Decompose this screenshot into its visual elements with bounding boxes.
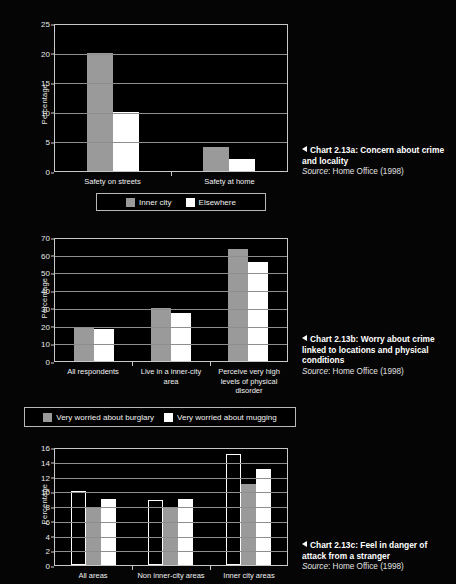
chart-b-y-tick: 50	[41, 269, 50, 278]
page-root: Percentage 0510152025 Safety on streetsS…	[0, 0, 456, 584]
chart-c-gridline	[55, 463, 287, 464]
chart-c-gridline	[55, 522, 287, 523]
chart-c-gridline	[55, 492, 287, 493]
chart-b-legend: Very worried about burglaryVery worried …	[24, 407, 296, 427]
chart-b-gridline	[55, 256, 287, 257]
chart-c-y-tick: 10	[41, 488, 50, 497]
chart-b-x-labels: All respondentsLive in a inner-city area…	[54, 367, 288, 396]
chart-c-bar	[178, 499, 193, 565]
chart-b-y-tick: 30	[41, 304, 50, 313]
chart-b-caption-source: Source: Home Office (1998)	[302, 367, 452, 378]
legend-item: Inner city	[126, 198, 171, 207]
chart-c-y-tick: 12	[41, 473, 50, 482]
chart-b-bar	[248, 262, 268, 361]
chart-b-y-tick: 40	[41, 287, 50, 296]
chart-c-gridline	[55, 507, 287, 508]
chart-a-x-tickmark	[171, 172, 172, 176]
chart-b-gridline	[55, 344, 287, 345]
chart-b-y-tick: 20	[41, 322, 50, 331]
chart-a-x-tickmarks	[54, 172, 288, 176]
chart-a-caption: Chart 2.13a: Concern about crime and loc…	[302, 145, 452, 178]
chart-b-x-tickmark	[210, 362, 211, 366]
chart-c-gridline	[55, 537, 287, 538]
chart-b-caption-title: Chart 2.13b: Worry about crime linked to…	[302, 334, 452, 366]
chart-b-y-tick: 0	[46, 358, 50, 367]
chart-a-caption-title: Chart 2.13a: Concern about crime and loc…	[302, 145, 452, 166]
chart-b-y-ticks: 010203040506070	[32, 238, 54, 362]
legend-swatch-gray	[43, 413, 52, 422]
chart-b-x-tickmarks	[54, 362, 288, 366]
legend-label: Very worried about mugging	[177, 413, 277, 422]
chart-b-caption: Chart 2.13b: Worry about crime linked to…	[302, 334, 452, 377]
chart-c-y-tick: 4	[46, 532, 50, 541]
legend-item: Elsewhere	[186, 198, 236, 207]
chart-a-x-labels: Safety on streetsSafety at home	[54, 177, 288, 187]
chart-a-bar	[203, 147, 229, 171]
chart-c-gridline	[55, 551, 287, 552]
chart-c-y-tick: 8	[46, 503, 50, 512]
legend-label: Very worried about burglary	[56, 413, 154, 422]
chart-b-x-tickmark	[132, 362, 133, 366]
chart-c-plot-area	[54, 448, 288, 566]
chart-a-gridline	[55, 54, 287, 55]
chart-a-bar	[87, 53, 113, 171]
chart-c-x-label: Inner city areas	[210, 571, 288, 581]
legend-label: Elsewhere	[199, 198, 236, 207]
legend-item: Very worried about mugging	[164, 413, 277, 422]
chart-c-caption: Chart 2.13c: Feel in danger of attack fr…	[302, 540, 452, 573]
chart-b-gridline	[55, 273, 287, 274]
chart-a-bar-group	[55, 25, 171, 171]
legend-swatch-white	[164, 413, 173, 422]
chart-b-y-tick: 10	[41, 340, 50, 349]
chart-c-bar	[241, 484, 256, 565]
chart-c-bar	[148, 500, 163, 565]
chart-b-x-label: All respondents	[54, 367, 132, 396]
chart-b-bar-group	[132, 239, 209, 361]
left-triangle-icon	[302, 541, 307, 547]
chart-a-legend: Inner cityElsewhere	[96, 193, 266, 211]
chart-c-x-tickmark	[132, 566, 133, 570]
chart-2-13c: Percentage 0246810121416 All areasNon in…	[24, 448, 290, 584]
chart-c-bar	[226, 454, 241, 565]
chart-a-bars	[55, 25, 287, 171]
chart-c-x-label: All areas	[54, 571, 132, 581]
chart-c-y-tick: 14	[41, 458, 50, 467]
chart-a-gridline	[55, 113, 287, 114]
left-triangle-icon	[302, 146, 307, 152]
legend-swatch-white	[186, 198, 195, 207]
chart-c-y-tick: 2	[46, 547, 50, 556]
chart-a-y-tick: 25	[41, 20, 50, 29]
chart-c-bar	[71, 491, 86, 565]
chart-c-caption-title: Chart 2.13c: Feel in danger of attack fr…	[302, 540, 452, 561]
chart-c-x-tickmark	[210, 566, 211, 570]
chart-b-x-label: Perceive very high levels of physical di…	[210, 367, 288, 396]
chart-a-y-tick: 5	[46, 138, 50, 147]
chart-c-x-labels: All areasNon inner-city areasInner city …	[54, 571, 288, 581]
chart-c-y-tick: 6	[46, 517, 50, 526]
chart-a-y-ticks: 0510152025	[32, 24, 54, 172]
chart-a-bar	[229, 159, 255, 171]
chart-c-bar	[101, 499, 116, 565]
chart-a-gridline	[55, 142, 287, 143]
chart-2-13b: Percentage 010203040506070 All responden…	[24, 238, 290, 398]
chart-c-x-label: Non inner-city areas	[132, 571, 210, 581]
left-triangle-icon	[302, 335, 307, 341]
chart-a-x-label: Safety on streets	[54, 177, 171, 187]
chart-a-bar-group	[171, 25, 287, 171]
chart-c-gridline	[55, 478, 287, 479]
chart-c-caption-source: Source: Home Office (1998)	[302, 562, 452, 573]
chart-a-y-tick: 15	[41, 79, 50, 88]
chart-b-bar	[151, 308, 171, 361]
chart-b-gridline	[55, 309, 287, 310]
chart-c-y-tick: 16	[41, 444, 50, 453]
chart-b-y-tick: 70	[41, 234, 50, 243]
chart-c-y-ticks: 0246810121416	[32, 448, 54, 566]
chart-b-y-tick: 60	[41, 251, 50, 260]
chart-a-y-tick: 20	[41, 49, 50, 58]
chart-a-y-tick: 10	[41, 108, 50, 117]
legend-swatch-gray	[126, 198, 135, 207]
chart-a-gridline	[55, 83, 287, 84]
chart-c-y-tick: 0	[46, 562, 50, 571]
chart-a-plot-area	[54, 24, 288, 172]
chart-c-x-tickmarks	[54, 566, 288, 570]
